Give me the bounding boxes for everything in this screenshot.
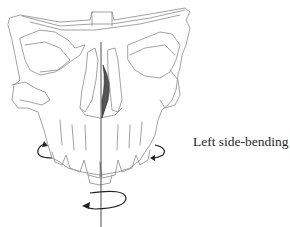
skull-outline: [8, 8, 190, 185]
skull-drawing: [0, 0, 290, 227]
side-bending-label: Left side-bending: [193, 134, 289, 150]
left-rotation-arrow: [38, 141, 52, 158]
axial-rotation-arrow: [82, 191, 126, 209]
right-rotation-arrow: [150, 145, 164, 161]
skull-diagram: Left side-bending: [0, 0, 290, 227]
